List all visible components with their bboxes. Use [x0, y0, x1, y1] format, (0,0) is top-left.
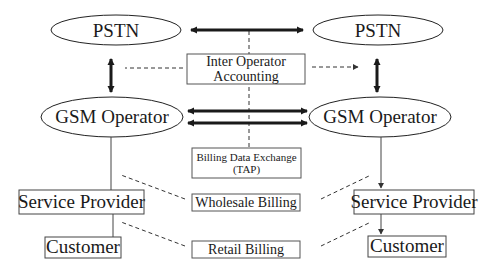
inter-operator-line1: Inter Operator — [206, 54, 286, 69]
cust-right-label: Customer — [368, 236, 446, 257]
sp-right-label: Service Provider — [354, 190, 474, 214]
retail-dashed-right — [321, 222, 371, 246]
inter-operator-line2: Accounting — [213, 69, 278, 84]
billing-data-line1: Billing Data Exchange — [196, 151, 296, 163]
retail-label: Retail Billing — [192, 241, 300, 258]
retail-dashed-left — [121, 222, 185, 246]
gsm-right-label: GSM Operator — [309, 106, 451, 128]
inter-operator-label: Inter Operator Accounting — [187, 54, 305, 84]
cust-left-label: Customer — [45, 237, 121, 258]
gsm-left-label: GSM Operator — [41, 106, 183, 128]
billing-data-line2: (TAP) — [233, 163, 260, 175]
pstn-left-label: PSTN — [51, 20, 181, 42]
wholesale-label: Wholesale Billing — [192, 194, 300, 211]
pstn-right-label: PSTN — [313, 20, 443, 42]
sp-left-label: Service Provider — [19, 190, 144, 214]
billing-data-label: Billing Data Exchange (TAP) — [192, 148, 301, 178]
